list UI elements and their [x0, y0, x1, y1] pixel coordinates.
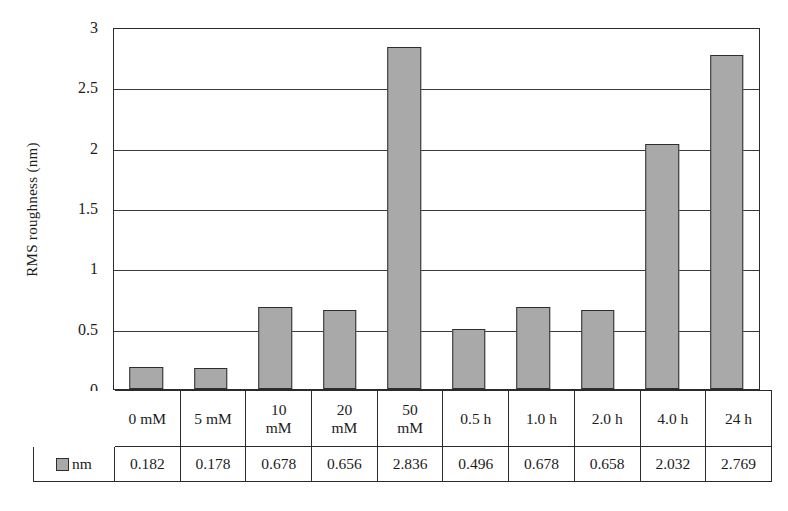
- category-label: 24 h: [706, 410, 771, 427]
- category-cell: 0 mM: [115, 391, 181, 447]
- category-label: 0 mM: [115, 410, 180, 427]
- y-axis-title: RMS roughness (nm): [24, 142, 41, 277]
- bar-slot: [308, 29, 373, 389]
- y-axis-title-container: RMS roughness (nm): [18, 28, 46, 390]
- bar-slot: [114, 29, 179, 389]
- bar: [323, 310, 357, 389]
- bar-slot: [695, 29, 760, 389]
- category-label: mM: [312, 419, 377, 436]
- bar-slot: [179, 29, 244, 389]
- legend-label: nm: [72, 455, 92, 473]
- value-cell: 0.496: [443, 447, 509, 482]
- y-axis-tick-label: 3: [90, 20, 98, 36]
- value-cell: 2.032: [640, 447, 706, 482]
- bar: [387, 47, 421, 389]
- category-label: 0.5 h: [443, 410, 508, 427]
- category-cell: 24 h: [706, 391, 772, 447]
- category-cell: 10mM: [246, 391, 312, 447]
- value-cell: 0.658: [574, 447, 640, 482]
- data-table: 0 mM5 mM10mM20mM50mM0.5 h1.0 h2.0 h4.0 h…: [33, 390, 772, 482]
- value-cell: 0.678: [246, 447, 312, 482]
- category-label: 20: [312, 401, 377, 418]
- legend-swatch-icon: [56, 458, 69, 471]
- bar: [710, 55, 744, 389]
- y-axis-tick-labels: 32.521.510.50: [46, 28, 106, 390]
- category-label: mM: [246, 419, 311, 436]
- bar-slot: [566, 29, 631, 389]
- value-cell: 0.178: [180, 447, 246, 482]
- category-label: 5 mM: [181, 410, 246, 427]
- value-cell: 0.182: [115, 447, 181, 482]
- category-cell: 0.5 h: [443, 391, 509, 447]
- bar-slot: [630, 29, 695, 389]
- bar-slot: [243, 29, 308, 389]
- y-axis-tick-label: 2.5: [78, 80, 98, 96]
- bar-series-nm: [114, 29, 759, 389]
- bar: [581, 310, 615, 389]
- bar-slot: [372, 29, 437, 389]
- value-cell: 0.678: [509, 447, 575, 482]
- legend-cell-nm: nm: [34, 447, 115, 482]
- table-row-categories: 0 mM5 mM10mM20mM50mM0.5 h1.0 h2.0 h4.0 h…: [34, 391, 772, 447]
- bar: [194, 368, 228, 389]
- table-row-values: nm 0.1820.1780.6780.6562.8360.4960.6780.…: [34, 447, 772, 482]
- value-cell: 0.656: [312, 447, 378, 482]
- category-label: 4.0 h: [641, 410, 706, 427]
- y-axis-tick-label: 0.5: [78, 322, 98, 338]
- y-axis-tick-label: 1: [90, 261, 98, 277]
- category-label: 2.0 h: [575, 410, 640, 427]
- bar-chart-figure: RMS roughness (nm) 32.521.510.50 0 mM5 m…: [0, 0, 788, 511]
- category-cell: 2.0 h: [574, 391, 640, 447]
- category-label: 1.0 h: [509, 410, 574, 427]
- bar-slot: [501, 29, 566, 389]
- bar-slot: [437, 29, 502, 389]
- category-cell: 4.0 h: [640, 391, 706, 447]
- y-axis-tick-label: 2: [90, 141, 98, 157]
- category-cell: 1.0 h: [509, 391, 575, 447]
- bar: [452, 329, 486, 389]
- value-cell: 2.769: [706, 447, 772, 482]
- category-cell: 20mM: [312, 391, 378, 447]
- bar: [645, 144, 679, 389]
- y-axis-tick-label: 1.5: [78, 201, 98, 217]
- category-cell: 50mM: [377, 391, 443, 447]
- bar: [516, 307, 550, 389]
- category-label: 50: [378, 401, 443, 418]
- bar: [258, 307, 292, 389]
- plot-area: [113, 28, 760, 390]
- value-cell: 2.836: [377, 447, 443, 482]
- table-corner-cell: [34, 391, 115, 447]
- category-label: mM: [378, 419, 443, 436]
- category-cell: 5 mM: [180, 391, 246, 447]
- category-label: 10: [246, 401, 311, 418]
- bar: [129, 367, 163, 389]
